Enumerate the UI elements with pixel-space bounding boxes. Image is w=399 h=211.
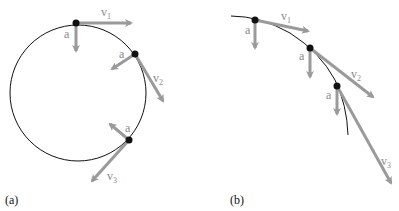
label-a1-a: a: [64, 28, 69, 40]
label-v3-b: v3: [381, 155, 391, 172]
label-v2-b: v2: [351, 68, 361, 85]
label-v1-a: v1: [101, 6, 111, 23]
velocity-vector-v2: [310, 48, 373, 97]
position-point-2: [132, 51, 139, 58]
label-v1-b: v1: [281, 10, 291, 27]
position-point-3: [334, 83, 341, 90]
panel-b-graphics: [231, 16, 391, 183]
panel-label-a: (a): [5, 194, 18, 206]
panel-label-b: (b): [230, 194, 244, 206]
motion-diagram: [0, 0, 399, 211]
label-a2-a: a: [119, 48, 124, 60]
position-point-1: [73, 20, 80, 27]
label-a1-b: a: [245, 24, 250, 36]
label-v2-a: v2: [153, 72, 163, 89]
position-point-1: [252, 17, 259, 24]
panel-a-graphics: [10, 20, 163, 182]
position-point-3: [126, 137, 133, 144]
label-v3-a: v3: [107, 170, 117, 187]
label-a3-a: a: [125, 122, 130, 134]
label-a2-b: a: [299, 50, 304, 62]
label-a3-b: a: [326, 89, 331, 101]
position-point-2: [307, 45, 314, 52]
